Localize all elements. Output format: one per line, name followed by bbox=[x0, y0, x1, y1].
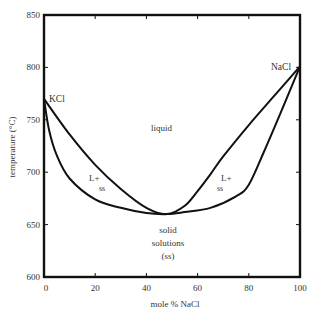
x-axis-ticks: 020406080100 bbox=[44, 15, 308, 293]
phase-diagram-chart: 020406080100 600650700750800850 KCl NaCl… bbox=[0, 0, 311, 313]
y-tick-label: 850 bbox=[27, 10, 41, 20]
l-plus-ss-right-label: L+ bbox=[221, 173, 232, 183]
x-tick-label: 20 bbox=[91, 283, 101, 293]
nacl-label: NaCl bbox=[271, 62, 291, 72]
x-tick-label: 40 bbox=[142, 283, 152, 293]
y-axis-title: temperature (°C) bbox=[7, 117, 17, 178]
ss-left-label: ss bbox=[99, 184, 105, 193]
y-tick-label: 700 bbox=[27, 167, 41, 177]
x-axis-title: mole % NaCl bbox=[151, 299, 200, 309]
ss-right-label: ss bbox=[217, 184, 223, 193]
kcl-label: KCl bbox=[49, 94, 65, 104]
l-plus-ss-left-label: L+ bbox=[89, 173, 100, 183]
x-tick-label: 0 bbox=[44, 283, 49, 293]
x-tick-label: 80 bbox=[244, 283, 254, 293]
ss-paren-label: (ss) bbox=[162, 251, 175, 261]
phase-curves bbox=[44, 66, 300, 214]
x-tick-label: 100 bbox=[293, 283, 307, 293]
y-tick-label: 800 bbox=[27, 62, 41, 72]
y-tick-label: 600 bbox=[27, 272, 41, 282]
liquid-region-label: liquid bbox=[151, 123, 173, 133]
solutions-label: solutions bbox=[152, 238, 185, 248]
y-tick-label: 650 bbox=[27, 220, 41, 230]
solidus-curve bbox=[44, 66, 300, 214]
solid-label: solid bbox=[159, 225, 177, 235]
y-tick-label: 750 bbox=[27, 115, 41, 125]
x-tick-label: 60 bbox=[193, 283, 203, 293]
